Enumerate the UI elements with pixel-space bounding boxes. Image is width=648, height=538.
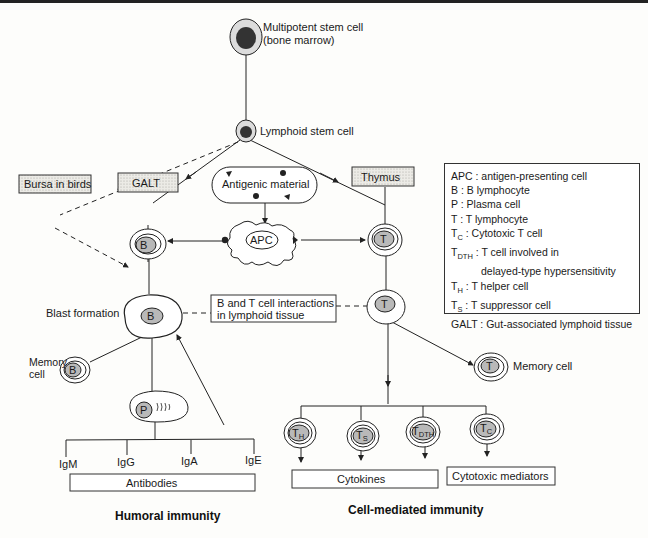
legend-th: TH : T helper cell [451,279,633,298]
memory-b-cell-label: B [69,364,76,376]
legend-p: P : Plasma cell [451,197,633,211]
plasma-cell [130,391,188,422]
legend-galt: GALT : Gut-associated lymphoid tissue [451,317,633,331]
cytokines-label: Cytokines [337,473,386,485]
cell-mediated-immunity-caption: Cell-mediated immunity [348,503,484,517]
b-cell-label: B [140,239,147,251]
t-cell-upper-label: T [380,233,387,245]
plasma-cell-label: P [140,404,147,416]
connector-bursa-b [55,228,128,267]
antigenic-label: Antigenic material [222,178,309,190]
humoral-immunity-caption: Humoral immunity [115,509,221,523]
abbreviation-legend: APC : antigen-presenting cell B : B lymp… [444,163,640,314]
bursa-label: Bursa in birds [24,178,92,190]
multipotent-label: Multipotent stem cell [263,21,363,33]
legend-b: B : B lymphocyte [451,183,633,197]
bone-marrow-label: (bone marrow) [263,34,335,46]
blast-cell-label: B [147,310,154,322]
ige-label: IgE [245,454,262,466]
ig-bracket [66,439,254,457]
lymphoid-label: Lymphoid stem cell [260,125,354,137]
galt-label: GALT [132,177,160,189]
antibodies-label: Antibodies [126,477,178,489]
blast-formation-label: Blast formation [46,307,119,319]
thymus-label: Thymus [361,171,401,183]
legend-tc: TC : Cytotoxic T cell [451,226,633,245]
lymphoid-stem-cell [236,120,256,142]
cytotoxic-label: Cytotoxic mediators [452,470,549,482]
iga-label: IgA [181,455,198,467]
apc-label: APC [250,234,273,246]
legend-apc: APC : antigen-presenting cell [451,169,633,183]
memory-b-label-1: Memory [29,356,68,368]
interaction-label-1: B and T cell interactions [217,297,334,309]
legend-tdth-cont: delayed-type hypersensitivity [451,264,633,278]
memory-b-label-2: cell [29,368,45,380]
t-cell-lower-label: T [381,298,388,310]
memory-t-cell-label: T [486,360,493,372]
igm-label: IgM [59,458,77,470]
multipotent-stem-cell [230,19,262,55]
b-cell [130,229,166,259]
legend-tdth: TDTH : T cell involved in [451,245,633,264]
legend-ts: TS : T suppressor cell [451,298,633,317]
interaction-label-2: in lymphoid tissue [217,309,304,321]
t-subset-bracket [301,406,486,420]
legend-t: T : T lymphocyte [451,212,633,226]
connector-blast-memory-b [90,337,142,362]
memory-t-label: Memory cell [513,360,572,372]
igg-label: IgG [117,456,135,468]
